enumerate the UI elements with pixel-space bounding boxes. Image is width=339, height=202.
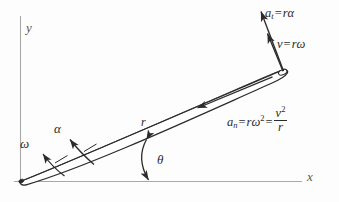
omega-label: ω xyxy=(20,137,29,150)
radius-label: r xyxy=(141,116,146,128)
v-variable: v xyxy=(277,37,283,51)
normal-acceleration-arrow xyxy=(198,77,273,108)
rotational-kinematics-figure: y x r θ ω α at=rα v=rω an=rω2=v2r xyxy=(0,0,339,202)
a-t-right-hand-side: rα xyxy=(283,6,294,20)
theta-arc xyxy=(142,140,149,181)
a-n-r-omega-exponent: 2 xyxy=(260,113,264,123)
fraction-numerator: v2 xyxy=(274,105,288,121)
a-t-equals: = xyxy=(274,6,283,20)
a-n-vector-line xyxy=(198,77,273,108)
x-axis-label: x xyxy=(307,170,313,183)
a-n-r-omega-term: rω xyxy=(247,115,261,129)
theta-angle-indicator xyxy=(142,140,149,181)
a-n-equals-first: = xyxy=(238,115,247,129)
alpha-label: α xyxy=(54,122,61,135)
v-right-hand-side: rω xyxy=(292,37,306,51)
diagram-canvas xyxy=(0,0,339,202)
velocity-equation: v=rω xyxy=(277,38,305,51)
omega-arc-crossbar xyxy=(55,156,68,164)
y-axis-label: y xyxy=(26,21,32,34)
fraction-numerator-exponent: 2 xyxy=(281,104,285,114)
v-squared-over-r-fraction: v2r xyxy=(274,105,288,134)
a-n-subscript: n xyxy=(233,120,237,130)
theta-label: θ xyxy=(157,153,163,166)
a-n-equals-second: = xyxy=(265,115,274,129)
tangential-acceleration-equation: at=rα xyxy=(265,7,294,21)
normal-acceleration-equation: an=rω2=v2r xyxy=(227,105,287,134)
fraction-denominator: r xyxy=(274,121,288,134)
v-equals: = xyxy=(283,37,292,51)
